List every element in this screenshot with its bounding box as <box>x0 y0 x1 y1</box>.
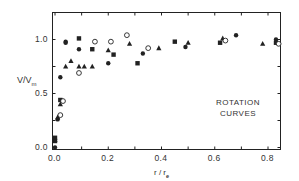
marker-filled-triangle <box>156 45 161 50</box>
marker-open-circle <box>276 41 281 46</box>
annotation-line-2: CURVES <box>208 108 268 119</box>
rotation-curves-chart: V/Vm r / re ROTATION CURVES 0.00.20.40.6… <box>0 0 299 181</box>
marker-filled-square <box>77 36 81 40</box>
marker-open-circle <box>124 33 129 38</box>
marker-filled-triangle <box>76 64 81 69</box>
plot-frame <box>53 13 281 150</box>
x-axis-label-main: r / r <box>154 168 166 177</box>
marker-filled-square <box>111 52 115 56</box>
marker-filled-circle <box>141 51 145 55</box>
marker-filled-circle <box>77 47 81 51</box>
y-axis-label: V/Vm <box>17 75 37 87</box>
x-tick-label: 0.0 <box>48 153 61 163</box>
y-tick-label: 0.0 <box>35 142 48 152</box>
marker-filled-triangle <box>63 64 68 69</box>
marker-filled-circle <box>234 33 238 37</box>
marker-open-circle <box>61 99 66 104</box>
y-axis-label-main: V/V <box>17 75 32 85</box>
marker-filled-square <box>90 47 94 51</box>
marker-open-circle <box>223 38 228 43</box>
y-tick-label: 1.0 <box>35 34 48 44</box>
marker-open-circle <box>58 113 63 118</box>
marker-filled-square <box>135 61 139 65</box>
marker-filled-triangle <box>260 41 265 46</box>
marker-open-circle <box>146 46 151 51</box>
x-axis-label-sub: e <box>166 173 169 179</box>
marker-filled-circle <box>183 45 187 49</box>
y-tick-label: 0.5 <box>35 88 48 98</box>
marker-filled-triangle <box>106 48 111 53</box>
marker-filled-triangle <box>90 64 95 69</box>
marker-filled-circle <box>63 39 67 43</box>
marker-filled-circle <box>58 75 62 79</box>
annotation-line-1: ROTATION <box>208 97 268 108</box>
marker-filled-triangle <box>68 58 73 63</box>
y-axis-label-sub: m <box>32 81 37 87</box>
marker-filled-triangle <box>127 41 132 46</box>
x-tick-label: 0.6 <box>208 153 221 163</box>
marker-filled-triangle <box>82 64 87 69</box>
x-tick-label: 0.8 <box>261 153 274 163</box>
chart-annotation: ROTATION CURVES <box>208 97 268 119</box>
x-axis-label: r / re <box>154 168 169 179</box>
marker-open-circle <box>109 39 114 44</box>
x-tick-label: 0.2 <box>101 153 114 163</box>
marker-filled-square <box>218 41 222 45</box>
marker-open-circle <box>93 39 98 44</box>
marker-filled-circle <box>106 61 110 65</box>
x-tick-label: 0.4 <box>155 153 168 163</box>
marker-filled-triangle <box>186 40 191 45</box>
marker-filled-square <box>173 39 177 43</box>
marker-open-circle <box>77 71 82 76</box>
marker-filled-circle <box>53 145 57 149</box>
